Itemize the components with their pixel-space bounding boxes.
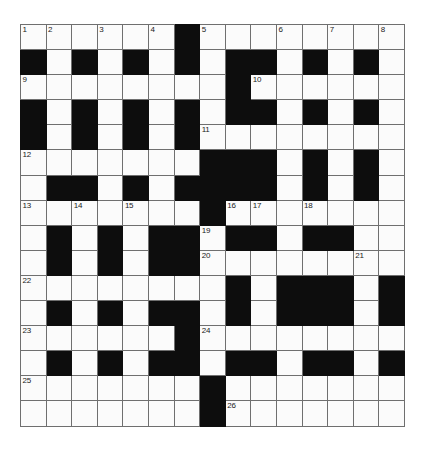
letter-cell[interactable]: 4 bbox=[148, 25, 174, 50]
letter-cell[interactable] bbox=[97, 50, 123, 75]
letter-cell[interactable] bbox=[46, 376, 72, 401]
letter-cell[interactable] bbox=[200, 100, 226, 125]
letter-cell[interactable] bbox=[276, 150, 302, 175]
letter-cell[interactable] bbox=[225, 376, 251, 401]
letter-cell[interactable] bbox=[225, 25, 251, 50]
letter-cell[interactable] bbox=[46, 50, 72, 75]
letter-cell[interactable] bbox=[97, 75, 123, 100]
letter-cell[interactable] bbox=[123, 351, 149, 376]
letter-cell[interactable] bbox=[379, 200, 405, 225]
letter-cell[interactable] bbox=[200, 351, 226, 376]
letter-cell[interactable] bbox=[200, 275, 226, 300]
letter-cell[interactable] bbox=[123, 401, 149, 426]
letter-cell[interactable] bbox=[72, 275, 98, 300]
letter-cell[interactable]: 19 bbox=[200, 225, 226, 250]
letter-cell[interactable] bbox=[72, 150, 98, 175]
letter-cell[interactable] bbox=[276, 100, 302, 125]
letter-cell[interactable] bbox=[379, 326, 405, 351]
letter-cell[interactable] bbox=[276, 75, 302, 100]
letter-cell[interactable] bbox=[148, 175, 174, 200]
letter-cell[interactable] bbox=[46, 125, 72, 150]
letter-cell[interactable] bbox=[123, 301, 149, 326]
letter-cell[interactable] bbox=[72, 75, 98, 100]
letter-cell[interactable] bbox=[123, 376, 149, 401]
letter-cell[interactable]: 12 bbox=[21, 150, 47, 175]
letter-cell[interactable] bbox=[174, 376, 200, 401]
letter-cell[interactable] bbox=[225, 125, 251, 150]
letter-cell[interactable]: 7 bbox=[328, 25, 354, 50]
letter-cell[interactable] bbox=[379, 376, 405, 401]
letter-cell[interactable] bbox=[148, 326, 174, 351]
letter-cell[interactable] bbox=[379, 100, 405, 125]
letter-cell[interactable] bbox=[97, 376, 123, 401]
letter-cell[interactable] bbox=[174, 200, 200, 225]
letter-cell[interactable] bbox=[72, 25, 98, 50]
letter-cell[interactable] bbox=[123, 25, 149, 50]
letter-cell[interactable] bbox=[148, 150, 174, 175]
letter-cell[interactable] bbox=[276, 225, 302, 250]
letter-cell[interactable] bbox=[353, 301, 379, 326]
letter-cell[interactable] bbox=[353, 326, 379, 351]
letter-cell[interactable]: 8 bbox=[379, 25, 405, 50]
letter-cell[interactable] bbox=[148, 75, 174, 100]
letter-cell[interactable] bbox=[225, 326, 251, 351]
letter-cell[interactable] bbox=[302, 25, 328, 50]
letter-cell[interactable]: 11 bbox=[200, 125, 226, 150]
letter-cell[interactable] bbox=[148, 376, 174, 401]
letter-cell[interactable] bbox=[148, 100, 174, 125]
letter-cell[interactable] bbox=[200, 50, 226, 75]
letter-cell[interactable] bbox=[353, 275, 379, 300]
letter-cell[interactable] bbox=[72, 326, 98, 351]
letter-cell[interactable] bbox=[379, 225, 405, 250]
letter-cell[interactable] bbox=[379, 175, 405, 200]
letter-cell[interactable] bbox=[200, 301, 226, 326]
letter-cell[interactable] bbox=[302, 125, 328, 150]
letter-cell[interactable] bbox=[123, 225, 149, 250]
letter-cell[interactable] bbox=[46, 275, 72, 300]
letter-cell[interactable] bbox=[379, 125, 405, 150]
letter-cell[interactable] bbox=[200, 75, 226, 100]
letter-cell[interactable] bbox=[46, 150, 72, 175]
letter-cell[interactable] bbox=[276, 200, 302, 225]
letter-cell[interactable] bbox=[276, 175, 302, 200]
letter-cell[interactable] bbox=[302, 401, 328, 426]
letter-cell[interactable] bbox=[97, 326, 123, 351]
letter-cell[interactable] bbox=[251, 250, 277, 275]
letter-cell[interactable] bbox=[328, 125, 354, 150]
letter-cell[interactable] bbox=[353, 376, 379, 401]
letter-cell[interactable] bbox=[328, 75, 354, 100]
letter-cell[interactable]: 10 bbox=[251, 75, 277, 100]
letter-cell[interactable] bbox=[276, 50, 302, 75]
letter-cell[interactable]: 1 bbox=[21, 25, 47, 50]
letter-cell[interactable] bbox=[276, 401, 302, 426]
letter-cell[interactable]: 5 bbox=[200, 25, 226, 50]
letter-cell[interactable] bbox=[174, 275, 200, 300]
letter-cell[interactable] bbox=[72, 351, 98, 376]
letter-cell[interactable] bbox=[97, 100, 123, 125]
letter-cell[interactable] bbox=[379, 150, 405, 175]
letter-cell[interactable] bbox=[302, 376, 328, 401]
letter-cell[interactable] bbox=[379, 75, 405, 100]
letter-cell[interactable] bbox=[251, 301, 277, 326]
letter-cell[interactable] bbox=[123, 250, 149, 275]
letter-cell[interactable]: 18 bbox=[302, 200, 328, 225]
letter-cell[interactable] bbox=[72, 301, 98, 326]
letter-cell[interactable]: 3 bbox=[97, 25, 123, 50]
letter-cell[interactable] bbox=[251, 25, 277, 50]
letter-cell[interactable] bbox=[21, 250, 47, 275]
letter-cell[interactable] bbox=[123, 75, 149, 100]
letter-cell[interactable] bbox=[353, 225, 379, 250]
letter-cell[interactable] bbox=[251, 401, 277, 426]
letter-cell[interactable] bbox=[21, 401, 47, 426]
letter-cell[interactable] bbox=[97, 200, 123, 225]
letter-cell[interactable] bbox=[328, 100, 354, 125]
letter-cell[interactable] bbox=[251, 376, 277, 401]
letter-cell[interactable]: 17 bbox=[251, 200, 277, 225]
letter-cell[interactable] bbox=[353, 75, 379, 100]
letter-cell[interactable] bbox=[251, 275, 277, 300]
letter-cell[interactable] bbox=[97, 125, 123, 150]
crossword-grid[interactable]: 1234567891011121314151617181920212223242… bbox=[20, 24, 405, 427]
letter-cell[interactable] bbox=[21, 351, 47, 376]
letter-cell[interactable] bbox=[148, 125, 174, 150]
letter-cell[interactable] bbox=[353, 200, 379, 225]
